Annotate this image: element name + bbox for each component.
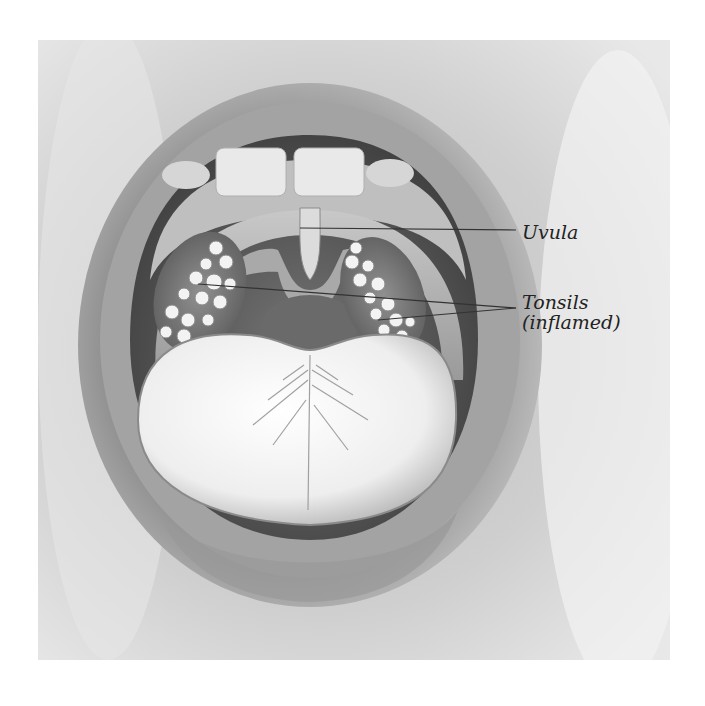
mouth-drawing [38,40,670,660]
tonsillitis-illustration [38,40,670,660]
tonsils-label-line1: Tonsils [522,292,621,312]
uvula-label: Uvula [522,222,578,242]
tonsils-label-line2: (inflamed) [522,312,621,332]
side-tooth-left [162,161,210,189]
tongue [138,334,456,525]
tonsils-label: Tonsils (inflamed) [522,292,621,332]
side-tooth-right [366,159,414,187]
upper-tooth-right [294,148,364,196]
upper-tooth-left [216,148,286,196]
